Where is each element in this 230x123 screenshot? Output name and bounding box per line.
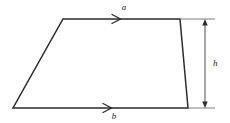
figure-canvas: a b h — [0, 0, 230, 123]
label-side-b: b — [112, 111, 117, 121]
label-side-a: a — [122, 2, 127, 12]
height-arrowhead-up-icon — [202, 19, 207, 26]
trapezoid-figure: a b h — [0, 0, 230, 123]
label-height-h: h — [213, 58, 218, 68]
trapezoid-outline — [13, 19, 188, 108]
height-arrowhead-down-icon — [202, 102, 207, 109]
